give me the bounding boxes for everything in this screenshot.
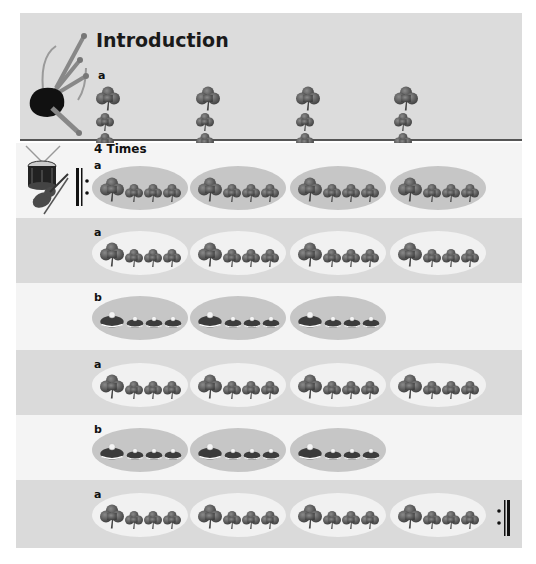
- clover-beat-group: [92, 363, 188, 407]
- clover-beat-group: [290, 363, 386, 407]
- small-drum-cap-icon: [126, 316, 144, 328]
- small-drum-cap-icon: [362, 316, 380, 328]
- small-drum-cap-icon: [362, 448, 380, 460]
- big-clover-icon: [298, 241, 322, 268]
- small-clover-icon: [323, 248, 341, 268]
- small-clover-icon: [442, 183, 460, 203]
- small-clover-icon: [461, 380, 479, 400]
- small-clover-icon: [361, 510, 379, 530]
- intro-title: Introduction: [96, 29, 229, 51]
- clover-beat-group: [290, 166, 386, 210]
- small-drum-cap-icon: [224, 448, 242, 460]
- section-label-b: b: [94, 291, 102, 304]
- clover-beat-group: [190, 363, 286, 407]
- small-clover-icon: [423, 510, 441, 530]
- big-clover-icon: [96, 85, 120, 112]
- big-clover-icon: [398, 176, 422, 203]
- drum-cap-beat-group: [290, 428, 386, 472]
- drum-cap-beat-group: [92, 428, 188, 472]
- clover-beat-group: [190, 493, 286, 537]
- big-drum-cap-icon: [99, 311, 125, 328]
- repeat-start-icon: [76, 168, 92, 206]
- small-drum-cap-icon: [224, 316, 242, 328]
- drum-cap-beat-group: [190, 296, 286, 340]
- drum-cap-beat-group: [190, 428, 286, 472]
- section-label-b: b: [94, 423, 102, 436]
- small-clover-icon: [261, 183, 279, 203]
- small-drum-cap-icon: [126, 448, 144, 460]
- small-drum-cap-icon: [145, 316, 163, 328]
- small-clover-icon: [442, 510, 460, 530]
- big-clover-icon: [298, 176, 322, 203]
- repeat-count-label: 4 Times: [94, 142, 147, 156]
- big-clover-icon: [198, 176, 222, 203]
- big-clover-icon: [198, 241, 222, 268]
- small-clover-icon: [261, 248, 279, 268]
- song-row-b: b: [16, 283, 522, 350]
- section-label-a: a: [94, 226, 101, 239]
- small-clover-icon: [144, 380, 162, 400]
- small-clover-icon: [361, 380, 379, 400]
- small-clover-icon: [342, 510, 360, 530]
- big-clover-icon: [394, 85, 418, 112]
- section-label-a: a: [98, 69, 105, 82]
- small-clover-icon: [163, 248, 181, 268]
- small-drum-cap-icon: [164, 448, 182, 460]
- big-clover-icon: [100, 373, 124, 400]
- small-clover-icon: [296, 112, 314, 132]
- small-clover-icon: [461, 248, 479, 268]
- small-clover-icon: [223, 183, 241, 203]
- small-drum-cap-icon: [343, 448, 361, 460]
- clover-beat-group: [92, 166, 188, 210]
- small-clover-icon: [242, 380, 260, 400]
- clover-beat-group: [92, 231, 188, 275]
- big-clover-icon: [398, 373, 422, 400]
- big-clover-icon: [198, 503, 222, 530]
- small-clover-icon: [125, 380, 143, 400]
- small-clover-icon: [342, 380, 360, 400]
- big-drum-cap-icon: [99, 443, 125, 460]
- song-row-b: b: [16, 415, 522, 480]
- small-clover-icon: [323, 380, 341, 400]
- small-clover-icon: [323, 183, 341, 203]
- drum-cap-beat-group: [290, 296, 386, 340]
- small-clover-icon: [323, 510, 341, 530]
- small-clover-icon: [242, 248, 260, 268]
- small-clover-icon: [223, 510, 241, 530]
- small-clover-icon: [125, 248, 143, 268]
- big-drum-cap-icon: [197, 311, 223, 328]
- clover-beat-group: [390, 166, 486, 210]
- small-clover-icon: [144, 248, 162, 268]
- clover-beat-group: [92, 493, 188, 537]
- clover-beat-group: [190, 231, 286, 275]
- small-clover-icon: [442, 248, 460, 268]
- big-drum-cap-icon: [297, 311, 323, 328]
- song-row-a: a: [16, 480, 522, 548]
- section-label-a: a: [94, 358, 101, 371]
- small-clover-icon: [442, 380, 460, 400]
- song-row-a: a: [16, 350, 522, 415]
- big-clover-icon: [398, 241, 422, 268]
- small-clover-icon: [261, 510, 279, 530]
- small-clover-icon: [423, 248, 441, 268]
- small-clover-icon: [163, 510, 181, 530]
- big-drum-cap-icon: [197, 443, 223, 460]
- section-label-a: a: [94, 488, 101, 501]
- big-clover-icon: [298, 373, 322, 400]
- small-clover-icon: [461, 510, 479, 530]
- small-drum-cap-icon: [262, 448, 280, 460]
- repeat-end-icon: [496, 500, 512, 536]
- small-clover-icon: [342, 248, 360, 268]
- section-label-a: a: [94, 159, 101, 172]
- small-clover-icon: [223, 380, 241, 400]
- clover-beat-group: [290, 231, 386, 275]
- drum-cap-beat-group: [92, 296, 188, 340]
- clover-beat-group: [190, 166, 286, 210]
- big-clover-icon: [398, 503, 422, 530]
- big-clover-icon: [196, 85, 220, 112]
- small-clover-icon: [361, 183, 379, 203]
- small-clover-icon: [125, 510, 143, 530]
- drum-and-fiddle-icon: [22, 144, 72, 216]
- big-clover-icon: [296, 85, 320, 112]
- clover-beat-group: [390, 363, 486, 407]
